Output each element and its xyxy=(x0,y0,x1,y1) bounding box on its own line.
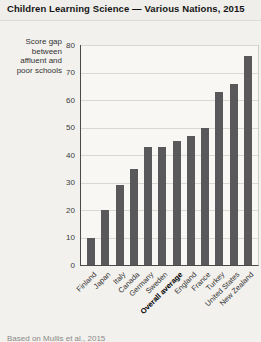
bar-united-states xyxy=(230,84,238,266)
plot-area xyxy=(80,45,259,266)
y-tick-label: 10 xyxy=(0,233,75,242)
y-tick-label: 40 xyxy=(0,151,75,160)
chart-title: Children Learning Science — Various Nati… xyxy=(7,3,257,14)
gridline xyxy=(81,73,258,74)
bar-italy xyxy=(116,185,124,265)
y-tick-label: 60 xyxy=(0,96,75,105)
y-tick-label: 0 xyxy=(0,261,75,270)
y-tick-label: 30 xyxy=(0,178,75,187)
bar-overall-average xyxy=(173,141,181,265)
y-tick-label: 50 xyxy=(0,123,75,132)
chart-panel: Score gap between affluent and poor scho… xyxy=(0,21,261,342)
bar-france xyxy=(201,128,209,266)
bar-canada xyxy=(130,169,138,265)
y-tick-label: 20 xyxy=(0,206,75,215)
chart-figure: Children Learning Science — Various Nati… xyxy=(0,0,261,342)
bar-japan xyxy=(101,210,109,265)
bar-turkey xyxy=(215,92,223,265)
bar-england xyxy=(187,136,195,265)
bar-new-zealand xyxy=(244,56,252,265)
bar-germany xyxy=(144,147,152,265)
source-note: Based on Mullis et al., 2015 xyxy=(7,334,247,342)
bar-finland xyxy=(87,238,95,266)
y-tick-label: 80 xyxy=(0,41,75,50)
gridline xyxy=(81,45,258,46)
bar-sweden xyxy=(158,147,166,265)
y-tick-label: 70 xyxy=(0,68,75,77)
